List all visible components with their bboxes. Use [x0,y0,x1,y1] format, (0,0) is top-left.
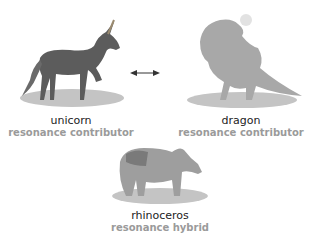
rhinoceros-label: rhinoceros resonance hybrid [90,210,230,234]
resonance-arrow-icon [130,68,160,78]
figure-name: unicorn [1,115,141,127]
figure-role: resonance contributor [1,127,141,139]
figure-role: resonance contributor [171,127,311,139]
dragon-illustration [180,2,305,110]
figure-name: dragon [171,115,311,127]
unicorn-label: unicorn resonance contributor [1,115,141,139]
figure-name: rhinoceros [90,210,230,222]
figure-role: resonance hybrid [90,222,230,234]
rhinoceros-illustration [110,142,210,206]
unicorn-illustration [10,18,125,110]
dragon-label: dragon resonance contributor [171,115,311,139]
